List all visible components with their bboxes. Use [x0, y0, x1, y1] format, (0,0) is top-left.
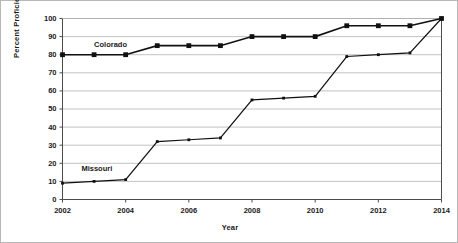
y-tick-label: 70: [48, 68, 56, 77]
data-point-marker: [376, 23, 381, 28]
x-tick-label: 2008: [244, 206, 261, 215]
data-point-marker: [124, 178, 127, 181]
y-tick-label: 30: [48, 141, 56, 150]
data-point-marker: [314, 95, 317, 98]
data-point-marker: [219, 137, 222, 140]
data-point-marker: [313, 34, 318, 39]
data-point-marker: [187, 138, 190, 141]
data-point-marker: [377, 53, 380, 56]
data-point-marker: [155, 43, 160, 48]
data-point-marker: [409, 51, 412, 54]
data-point-marker: [251, 99, 254, 102]
y-tick-label: 100: [44, 14, 57, 23]
series-labels: ColoradoMissouri: [81, 40, 127, 172]
y-axis-ticks: 0102030405060708090100: [44, 14, 63, 204]
x-tick-label: 2012: [370, 206, 387, 215]
data-point-marker: [281, 34, 286, 39]
y-tick-label: 50: [48, 104, 56, 113]
data-point-marker: [345, 55, 348, 58]
series-label-colorado: Colorado: [94, 40, 127, 49]
data-point-marker: [92, 52, 97, 57]
y-tick-label: 90: [48, 32, 56, 41]
data-point-marker: [186, 43, 191, 48]
y-tick-label: 20: [48, 159, 56, 168]
x-tick-label: 2006: [180, 206, 197, 215]
data-point-marker: [282, 97, 285, 100]
x-axis-ticks: 2002200420062008201020122014: [54, 200, 451, 215]
data-point-marker: [408, 23, 413, 28]
y-tick-label: 10: [48, 177, 56, 186]
chart-container: Percent Proficient or Above Year 0102030…: [0, 0, 458, 243]
y-tick-label: 80: [48, 50, 56, 59]
data-point-marker: [93, 180, 96, 183]
data-point-marker: [60, 52, 65, 57]
x-tick-label: 2002: [54, 206, 71, 215]
data-point-marker: [156, 140, 159, 143]
data-point-marker: [344, 23, 349, 28]
x-tick-label: 2014: [433, 206, 451, 215]
y-tick-label: 40: [48, 123, 56, 132]
x-tick-label: 2004: [117, 206, 135, 215]
series-label-missouri: Missouri: [81, 164, 112, 173]
data-point-marker: [440, 17, 443, 20]
data-point-marker: [61, 182, 64, 185]
data-point-marker: [218, 43, 223, 48]
y-tick-label: 60: [48, 86, 56, 95]
x-tick-label: 2010: [307, 206, 324, 215]
data-point-marker: [123, 52, 128, 57]
line-chart-plot: 0102030405060708090100 20022004200620082…: [1, 1, 458, 243]
data-point-marker: [250, 34, 255, 39]
y-tick-label: 0: [52, 195, 56, 204]
